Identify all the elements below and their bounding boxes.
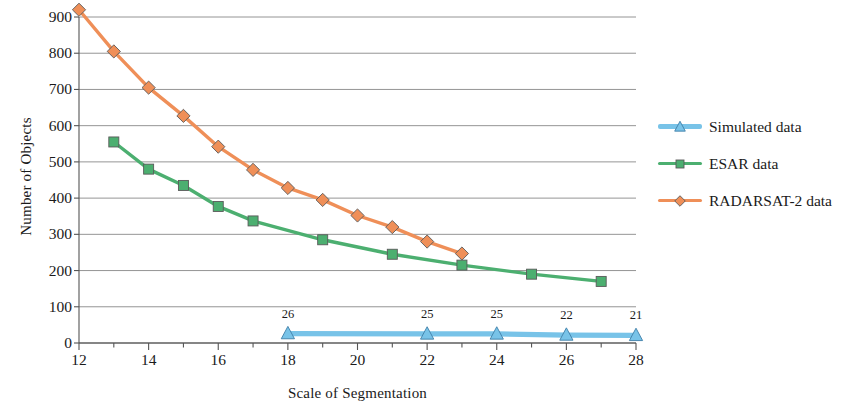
square-icon xyxy=(596,276,606,286)
data-point-label: 25 xyxy=(407,308,447,321)
y-axis-tick-label: 900 xyxy=(30,9,72,25)
triangle-icon xyxy=(670,118,690,136)
x-axis-tick-label: 28 xyxy=(616,352,656,368)
square-marker xyxy=(178,180,188,190)
y-axis-tick-label: 100 xyxy=(30,299,72,315)
legend-item-simulated-data[interactable]: Simulated data xyxy=(658,108,851,145)
square-icon xyxy=(676,160,684,168)
square-marker xyxy=(527,269,537,279)
square-marker xyxy=(457,260,467,270)
square-marker xyxy=(676,160,684,168)
legend-label: ESAR data xyxy=(709,155,778,173)
square-icon xyxy=(144,164,154,174)
y-axis-tick-label: 600 xyxy=(30,118,72,134)
diamond-marker xyxy=(455,247,468,260)
square-icon xyxy=(213,201,223,211)
diamond-marker xyxy=(675,195,686,206)
y-axis-tick-labels: 9008007006005004003002001000 xyxy=(0,0,72,410)
legend-label: RADARSAT-2 data xyxy=(709,192,832,210)
square-marker xyxy=(144,164,154,174)
y-axis-tick-label: 800 xyxy=(30,45,72,61)
diamond-icon xyxy=(675,195,686,206)
square-icon xyxy=(178,180,188,190)
diamond-icon xyxy=(421,235,434,248)
x-axis-title: Scale of Segmentation xyxy=(79,385,636,402)
series-simulated-data xyxy=(281,326,642,340)
diamond-icon xyxy=(351,209,364,222)
square-marker xyxy=(109,137,119,147)
triangle-icon xyxy=(675,121,686,131)
triangle-marker xyxy=(675,121,686,131)
y-axis-tick-label: 300 xyxy=(30,226,72,242)
diamond-marker xyxy=(386,220,399,233)
diamond-icon xyxy=(386,220,399,233)
square-marker xyxy=(318,235,328,245)
square-icon xyxy=(527,269,537,279)
square-icon xyxy=(457,260,467,270)
x-axis-tick-label: 14 xyxy=(129,352,169,368)
y-axis-tick-label: 500 xyxy=(30,154,72,170)
x-axis-tick-label: 24 xyxy=(477,352,517,368)
y-axis-tick-label: 400 xyxy=(30,190,72,206)
y-axis-tick-label: 200 xyxy=(30,263,72,279)
series-radarsat-2-data xyxy=(72,3,468,260)
legend-item-esar-data[interactable]: ESAR data xyxy=(658,145,851,182)
chart-legend: Simulated dataESAR dataRADARSAT-2 data xyxy=(658,108,851,219)
x-axis-tick-label: 26 xyxy=(546,352,586,368)
x-axis-tick-label: 16 xyxy=(198,352,238,368)
diamond-marker xyxy=(421,235,434,248)
data-point-label: 25 xyxy=(477,308,517,321)
square-icon xyxy=(318,235,328,245)
square-icon xyxy=(109,137,119,147)
diamond-marker xyxy=(281,181,294,194)
square-marker xyxy=(596,276,606,286)
legend-swatch xyxy=(658,193,702,209)
x-axis-tick-label: 20 xyxy=(338,352,378,368)
data-point-label: 26 xyxy=(268,308,308,321)
data-point-label: 22 xyxy=(546,309,586,322)
chart-container: Number of Objects 9008007006005004003002… xyxy=(0,0,851,410)
square-marker xyxy=(248,216,258,226)
x-axis-tick-label: 18 xyxy=(268,352,308,368)
diamond-marker xyxy=(316,193,329,206)
diamond-icon xyxy=(281,181,294,194)
y-axis-tick-label: 0 xyxy=(30,335,72,351)
series-line xyxy=(79,10,462,254)
legend-swatch xyxy=(658,156,702,172)
square-icon xyxy=(670,155,690,173)
legend-item-radarsat-2-data[interactable]: RADARSAT-2 data xyxy=(658,182,851,219)
square-icon xyxy=(387,249,397,259)
legend-swatch xyxy=(658,119,702,135)
square-marker xyxy=(387,249,397,259)
x-axis-tick-label: 12 xyxy=(59,352,99,368)
diamond-icon xyxy=(670,192,690,210)
x-axis-tick-label: 22 xyxy=(407,352,447,368)
legend-label: Simulated data xyxy=(709,118,802,136)
diamond-icon xyxy=(316,193,329,206)
data-point-label: 21 xyxy=(616,309,656,322)
diamond-icon xyxy=(455,247,468,260)
series-line xyxy=(288,334,636,336)
square-icon xyxy=(248,216,258,226)
square-marker xyxy=(213,201,223,211)
y-axis-tick-label: 700 xyxy=(30,81,72,97)
diamond-marker xyxy=(351,209,364,222)
